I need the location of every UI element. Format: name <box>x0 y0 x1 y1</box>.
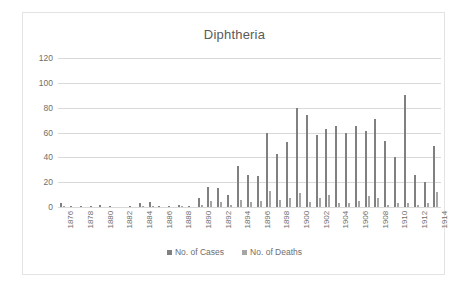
bar-group <box>195 58 205 207</box>
bar-deaths <box>348 203 350 207</box>
bar-cases <box>60 203 62 207</box>
bar-deaths <box>181 206 183 207</box>
x-axis-tick-label: 1888 <box>184 211 193 228</box>
y-axis-tick-label: 40 <box>44 152 53 162</box>
bar-group <box>392 58 402 207</box>
y-axis-tick-label: 80 <box>44 103 53 113</box>
bar-deaths <box>387 205 389 207</box>
x-axis-tick-label: 1902 <box>322 211 331 228</box>
bar-cases <box>414 175 416 207</box>
bar-group <box>313 58 323 207</box>
bar-deaths <box>368 196 370 207</box>
bar-cases <box>374 119 376 207</box>
bar-cases <box>198 198 200 207</box>
bar-deaths <box>417 205 419 207</box>
bar-group <box>304 58 314 207</box>
bar-deaths <box>289 198 291 207</box>
bar-group <box>294 58 304 207</box>
x-axis-tick-label: 1882 <box>125 211 134 228</box>
x-axis-tick-label: 1900 <box>302 211 311 228</box>
bar-cases <box>276 154 278 207</box>
bar-group <box>117 58 127 207</box>
bar-group <box>68 58 78 207</box>
bar-deaths <box>427 203 429 207</box>
bar-cases <box>335 126 337 207</box>
bar-deaths <box>279 200 281 207</box>
bar-cases <box>424 182 426 207</box>
x-axis-tick-label: 1892 <box>224 211 233 228</box>
x-axis-tick-label: 1878 <box>86 211 95 228</box>
bar-group <box>225 58 235 207</box>
bar-cases <box>158 206 160 207</box>
bar-group <box>264 58 274 207</box>
bar-deaths <box>436 192 438 207</box>
bar-group <box>186 58 196 207</box>
bar-group <box>146 58 156 207</box>
legend-swatch-icon <box>167 250 172 255</box>
bar-group <box>205 58 215 207</box>
bar-group <box>323 58 333 207</box>
bar-group <box>343 58 353 207</box>
bar-deaths <box>319 198 321 207</box>
bar-group <box>215 58 225 207</box>
bar-group <box>254 58 264 207</box>
bar-deaths <box>358 201 360 207</box>
bar-cases <box>325 129 327 207</box>
gridline: 0 <box>58 207 441 208</box>
x-axis-tick-label: 1876 <box>66 211 75 228</box>
bar-deaths <box>338 203 340 207</box>
bar-deaths <box>328 195 330 207</box>
x-axis-tick-label: 1910 <box>400 211 409 228</box>
bar-group <box>176 58 186 207</box>
chart-legend: No. of CasesNo. of Deaths <box>23 247 446 257</box>
bar-group <box>156 58 166 207</box>
bar-cases <box>404 95 406 207</box>
legend-item-deaths[interactable]: No. of Deaths <box>242 247 302 257</box>
bar-cases <box>70 206 72 207</box>
bar-group <box>431 58 441 207</box>
bar-group <box>166 58 176 207</box>
bar-cases <box>394 157 396 207</box>
x-axis-tick-label: 1906 <box>361 211 370 228</box>
bar-group <box>284 58 294 207</box>
bar-deaths <box>201 205 203 207</box>
bar-cases <box>207 187 209 207</box>
bar-cases <box>217 188 219 207</box>
y-axis-tick-label: 20 <box>44 177 53 187</box>
bar-deaths <box>220 202 222 207</box>
bar-cases <box>188 206 190 207</box>
bar-cases <box>266 133 268 208</box>
bar-group <box>362 58 372 207</box>
bar-cases <box>286 142 288 207</box>
bar-group <box>137 58 147 207</box>
bar-group <box>58 58 68 207</box>
bar-group <box>402 58 412 207</box>
legend-label: No. of Cases <box>175 247 224 257</box>
bar-group <box>245 58 255 207</box>
x-axis-tick-label: 1884 <box>145 211 154 228</box>
bar-group <box>372 58 382 207</box>
bar-cases <box>247 175 249 207</box>
bar-cases <box>257 176 259 207</box>
bar-deaths <box>407 203 409 207</box>
bar-cases <box>433 146 435 207</box>
bar-cases <box>345 133 347 208</box>
y-axis-tick-label: 100 <box>39 78 53 88</box>
x-axis-tick-label: 1898 <box>282 211 291 228</box>
bar-group <box>107 58 117 207</box>
bar-group <box>235 58 245 207</box>
bar-cases <box>227 195 229 207</box>
bar-cases <box>237 166 239 207</box>
bar-cases <box>139 203 141 207</box>
bar-cases <box>365 131 367 207</box>
x-axis-tick-label: 1912 <box>420 211 429 228</box>
bar-deaths <box>269 191 271 207</box>
x-axis-tick-label: 1894 <box>243 211 252 228</box>
bar-group <box>412 58 422 207</box>
chart-container: Diphtheria 02040608010012018761878188018… <box>22 12 445 275</box>
bar-group <box>421 58 431 207</box>
bar-deaths <box>299 193 301 207</box>
legend-item-cases[interactable]: No. of Cases <box>167 247 224 257</box>
bar-deaths <box>230 205 232 207</box>
bar-deaths <box>63 206 65 207</box>
